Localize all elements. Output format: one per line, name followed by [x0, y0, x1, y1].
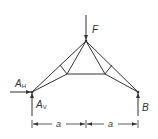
node-a — [31, 91, 34, 94]
member-b-lower-node — [105, 74, 138, 92]
truss-diagram: F AH AV B a a — [0, 0, 158, 139]
node-f — [85, 40, 88, 43]
node-b — [137, 91, 140, 94]
label-dim-right: a — [108, 119, 113, 129]
dimension-lines — [32, 120, 138, 128]
node-dots — [31, 40, 140, 94]
member-strut-left — [60, 65, 67, 74]
label-av-sub: V — [43, 104, 47, 110]
member-a-lower-node — [32, 74, 67, 92]
member-lower-node-f-left — [67, 41, 86, 74]
label-av: AV — [35, 99, 47, 110]
label-b: B — [142, 102, 149, 113]
force-arrows — [10, 15, 138, 116]
member-strut-right — [105, 65, 112, 74]
label-f: F — [92, 24, 99, 35]
member-a-f-upper — [32, 41, 86, 92]
label-ah-sub: H — [22, 83, 26, 89]
member-b-f-upper — [86, 41, 138, 92]
label-ah: AH — [14, 78, 26, 89]
truss-members — [32, 41, 138, 92]
label-dim-left: a — [56, 119, 61, 129]
